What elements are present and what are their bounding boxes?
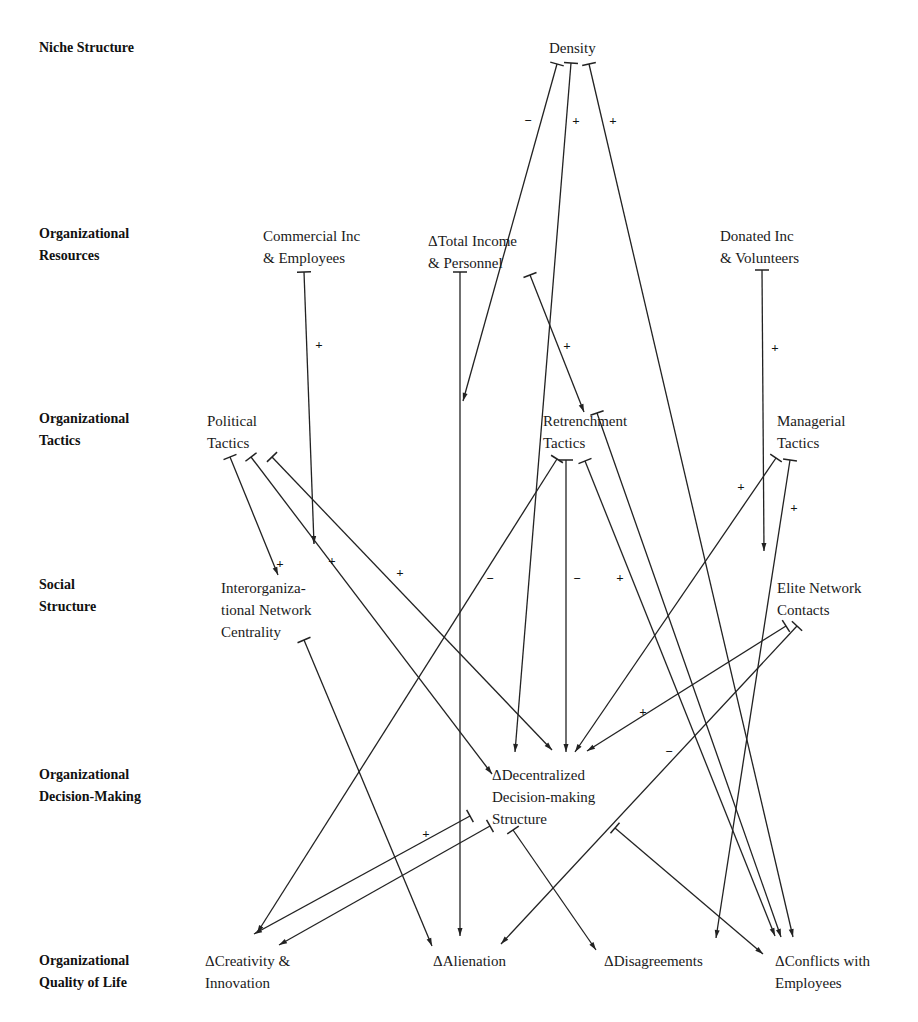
edge-tail-bar-icon — [551, 455, 563, 462]
edge-tail-bar-icon — [245, 453, 256, 461]
row-label-organizational-tactics: Organizational Tactics — [39, 408, 129, 452]
arrowhead-icon — [463, 393, 468, 401]
row-label-social-structure: Social Structure — [39, 574, 96, 618]
arrowhead-icon — [587, 745, 595, 751]
positive-sign: + — [572, 114, 579, 127]
positive-sign: + — [328, 554, 335, 567]
node-creativity-innovation: ΔCreativity & Innovation — [205, 950, 290, 994]
positive-sign: + — [315, 338, 322, 351]
node-alienation: ΔAlienation — [433, 950, 506, 972]
node-conflicts-with-employees: ΔConflicts with Employees — [775, 950, 870, 994]
positive-sign: + — [422, 827, 429, 840]
edge-tail-bar-icon — [579, 458, 592, 463]
edge-tail-bar-icon — [297, 272, 311, 273]
arrowhead-icon — [770, 928, 775, 936]
positive-sign: + — [563, 339, 570, 352]
edge-tail-bar-icon — [467, 810, 474, 822]
arrowhead-icon — [458, 928, 463, 936]
positive-sign: + — [790, 501, 797, 514]
edge-elite-to-decentralized — [587, 626, 786, 751]
node-managerial-tactics: Managerial Tactics — [777, 410, 845, 454]
node-elite-network-contacts: Elite Network Contacts — [777, 577, 862, 621]
edge-tail-bar-icon — [783, 459, 797, 461]
node-density: Density — [549, 37, 596, 59]
negative-sign: − — [665, 745, 672, 758]
arrowhead-icon — [789, 929, 794, 937]
arrowhead-icon — [564, 744, 569, 752]
edge-total_income-to-retrenchment — [530, 275, 584, 412]
positive-sign: + — [609, 114, 616, 127]
row-label-organizational-quality-of-life: Organizational Quality of Life — [39, 950, 129, 994]
arrowhead-icon — [427, 938, 432, 946]
node-interorganizational-network-centrality: Interorganiza- tional Network Centrality — [221, 577, 311, 643]
edge-tail-bar-icon — [782, 620, 789, 632]
edge-density-to-decentralized — [515, 63, 571, 752]
edge-tail-bar-icon — [224, 454, 237, 459]
arrowhead-icon — [575, 744, 582, 752]
row-label-organizational-resources: Organizational Resources — [39, 223, 129, 267]
node-commercial-income-employees: Commercial Inc & Employees — [263, 225, 360, 269]
edge-layer — [0, 0, 918, 1022]
positive-sign: + — [639, 705, 646, 718]
edge-commercial-to-interorg_link — [304, 272, 314, 544]
edge-managerial-to-decentralized — [575, 458, 776, 752]
edge-retrenchment-to-conflicts — [585, 461, 775, 936]
edge-retrenchment-to-creativity — [257, 459, 557, 933]
arrowhead-icon — [715, 930, 720, 938]
edge-political-to-decentralized — [272, 457, 552, 750]
edge-tail-bar-icon — [523, 272, 536, 277]
node-retrenchment-tactics: Retrenchment Tactics — [543, 410, 627, 454]
positive-sign: + — [396, 566, 403, 579]
arrowhead-icon — [589, 942, 596, 950]
edge-tail-bar-icon — [564, 62, 578, 63]
edge-decentralized-to-disagreements — [513, 830, 596, 950]
edge-tail-bar-icon — [770, 454, 782, 462]
positive-sign: + — [616, 571, 623, 584]
positive-sign: + — [771, 341, 778, 354]
negative-sign: − — [524, 114, 531, 127]
row-label-niche-structure: Niche Structure — [39, 37, 134, 59]
row-label-organizational-decision-making: Organizational Decision-Making — [39, 764, 141, 808]
edge-donated-to-elite_link — [762, 270, 764, 551]
edge-decentralized-to-creativity — [254, 816, 470, 934]
edge-density-to-conflicts — [589, 64, 793, 937]
causal-path-diagram: Niche Structure Organizational Resources… — [0, 0, 918, 1022]
positive-sign: + — [276, 557, 283, 570]
node-disagreements: ΔDisagreements — [604, 950, 703, 972]
node-political-tactics: Political Tactics — [207, 410, 257, 454]
arrowhead-icon — [279, 939, 287, 945]
node-donated-income-volunteers: Donated Inc & Volunteers — [720, 225, 799, 269]
negative-sign: − — [573, 572, 580, 585]
negative-sign: − — [486, 572, 493, 585]
arrowhead-icon — [761, 543, 766, 551]
edge-political-to-interorg — [230, 457, 278, 575]
positive-sign: + — [737, 480, 744, 493]
edge-decentralized-to-creativity_2 — [279, 826, 490, 945]
node-decentralized-decision-making: ΔDecentralized Decision-making Structure — [492, 764, 595, 830]
arrowhead-icon — [776, 929, 781, 937]
edge-decentralized-to-conflicts — [615, 828, 763, 954]
node-total-income-personnel: ΔTotal Income & Personnel — [428, 230, 517, 274]
edge-managerial-to-disagreements — [716, 460, 790, 938]
